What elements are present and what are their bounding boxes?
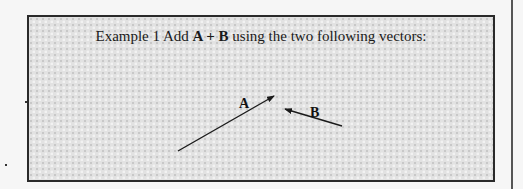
vector-a-label: A — [239, 96, 249, 112]
page-margin-rule — [511, 0, 513, 189]
example-box: Example 1 Add A + B using the two follow… — [27, 15, 495, 182]
margin-mark — [5, 164, 7, 166]
vector-diagram — [29, 17, 493, 180]
vector-a-arrow — [178, 96, 274, 151]
vector-b-label: B — [310, 105, 319, 121]
